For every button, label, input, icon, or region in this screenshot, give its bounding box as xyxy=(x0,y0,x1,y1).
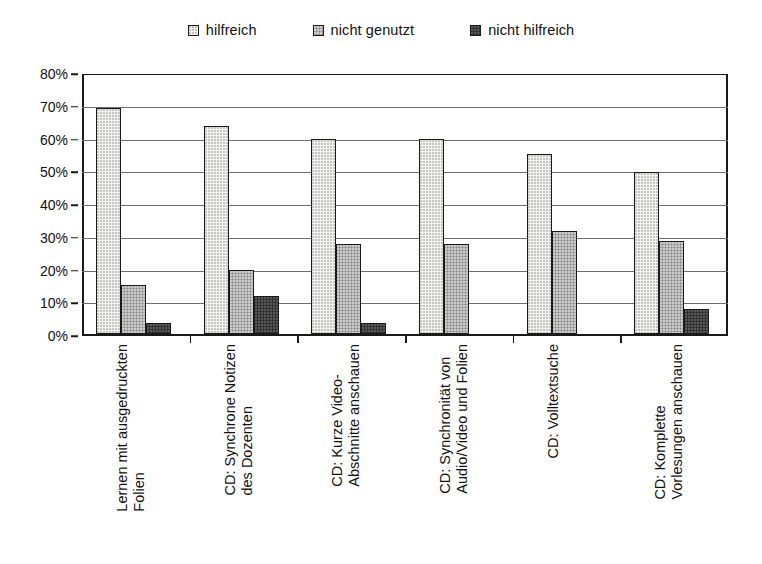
x-axis-label: Lernen mit ausgedrucktenFolien xyxy=(114,344,148,512)
legend-item-hilfreich: hilfreich xyxy=(188,22,257,38)
bar-hilfreich xyxy=(204,126,229,334)
legend-label-hilfreich: hilfreich xyxy=(206,22,257,38)
bar-hilfreich xyxy=(311,139,336,334)
x-axis-label-line: Vorlesungen anschauen xyxy=(669,344,686,500)
x-axis-labels: Lernen mit ausgedrucktenFolienCD: Synchr… xyxy=(82,344,728,559)
bar-hilfreich xyxy=(96,108,121,334)
bar-nicht-hilfreich xyxy=(146,323,171,334)
legend-label-nicht-hilfreich: nicht hilfreich xyxy=(488,22,574,38)
x-tick-mark xyxy=(297,336,299,343)
y-tick-label: 30% xyxy=(40,230,68,246)
x-axis-label-line: des Dozenten xyxy=(239,344,256,496)
y-tick-mark xyxy=(71,335,78,337)
x-axis-label: CD: Kurze Video-Abschnitte anschauen xyxy=(329,344,363,487)
x-axis-label-line: Lernen mit ausgedruckten xyxy=(114,344,130,512)
x-axis-label-line: Audio/Video und Folien xyxy=(454,344,471,494)
bar-group xyxy=(204,74,283,334)
y-tick-label: 60% xyxy=(40,132,68,148)
x-axis-label-line: CD: Kurze Video- xyxy=(329,374,345,487)
bar-hilfreich xyxy=(419,139,444,334)
bar-nicht-genutzt xyxy=(336,244,361,334)
bar-nicht-genutzt xyxy=(444,244,469,334)
x-axis-label: CD: Volltextsuche xyxy=(545,344,562,458)
y-tick-mark xyxy=(71,172,78,174)
bar-hilfreich xyxy=(527,154,552,334)
bar-group xyxy=(311,74,390,334)
bar-group xyxy=(419,74,498,334)
y-tick-mark xyxy=(71,237,78,239)
x-axis-label-line: CD: Komplette xyxy=(652,405,668,499)
bars-layer xyxy=(84,74,726,334)
y-tick-label: 20% xyxy=(40,263,68,279)
bar-group xyxy=(527,74,606,334)
bar-hilfreich xyxy=(634,172,659,334)
chart-legend: hilfreich nicht genutzt nicht hilfreich xyxy=(0,22,762,38)
x-tick-mark xyxy=(513,336,515,343)
bar-nicht-genutzt xyxy=(229,270,254,334)
y-tick-label: 0% xyxy=(48,328,68,344)
legend-item-nicht-genutzt: nicht genutzt xyxy=(313,22,415,38)
y-tick-mark xyxy=(71,303,78,305)
y-tick-mark xyxy=(71,106,78,108)
y-axis: 0%10%20%30%40%50%60%70%80% xyxy=(0,74,78,336)
legend-item-nicht-hilfreich: nicht hilfreich xyxy=(470,22,574,38)
bar-nicht-genutzt xyxy=(121,285,146,334)
legend-swatch-nicht-hilfreich-icon xyxy=(470,25,481,36)
x-axis-label: CD: KompletteVorlesungen anschauen xyxy=(652,344,686,500)
y-tick-label: 70% xyxy=(40,99,68,115)
x-axis-label: CD: Synchronität vonAudio/Video und Foli… xyxy=(437,344,471,494)
x-axis-label: CD: Synchrone Notizendes Dozenten xyxy=(222,344,256,496)
y-tick-label: 50% xyxy=(40,164,68,180)
bar-nicht-genutzt xyxy=(659,241,684,334)
legend-label-nicht-genutzt: nicht genutzt xyxy=(331,22,415,38)
x-axis-label-line: CD: Volltextsuche xyxy=(545,344,561,458)
y-tick-mark xyxy=(71,204,78,206)
legend-swatch-hilfreich-icon xyxy=(188,25,199,36)
bar-group xyxy=(634,74,713,334)
y-tick-mark xyxy=(71,139,78,141)
bar-group xyxy=(96,74,175,334)
bar-nicht-hilfreich xyxy=(684,309,709,334)
y-tick-label: 80% xyxy=(40,66,68,82)
bar-nicht-hilfreich xyxy=(254,296,279,334)
x-axis-label-line: Folien xyxy=(131,344,148,512)
x-tick-mark xyxy=(190,336,192,343)
bar-nicht-hilfreich xyxy=(361,323,386,334)
y-tick-mark xyxy=(71,270,78,272)
legend-swatch-nicht-genutzt-icon xyxy=(313,25,324,36)
x-axis-label-line: CD: Synchronität von xyxy=(437,357,453,494)
y-tick-label: 10% xyxy=(40,295,68,311)
bar-nicht-genutzt xyxy=(552,231,577,334)
x-tick-mark xyxy=(405,336,407,343)
y-tick-label: 40% xyxy=(40,197,68,213)
x-axis-label-line: Abschnitte anschauen xyxy=(346,344,363,487)
x-axis-label-line: CD: Synchrone Notizen xyxy=(222,344,238,496)
plot-area xyxy=(82,74,728,336)
bar-chart: hilfreich nicht genutzt nicht hilfreich … xyxy=(0,0,762,564)
x-tick-mark xyxy=(620,336,622,343)
y-tick-mark xyxy=(71,73,78,75)
